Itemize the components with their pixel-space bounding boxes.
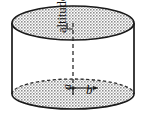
altitude-label: altitude	[55, 0, 68, 33]
cylinder-diagram	[0, 0, 147, 121]
base-edge-label-a: a	[61, 84, 73, 90]
cylinder-figure-container: altitude a b	[0, 0, 147, 121]
radius-label-b: b	[86, 83, 93, 96]
